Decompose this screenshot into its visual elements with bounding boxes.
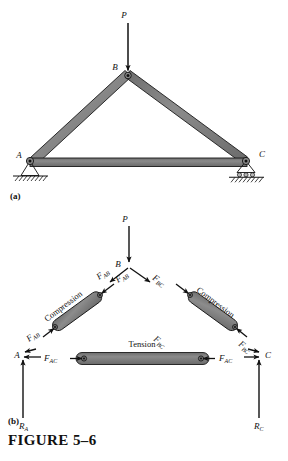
label-joint-a-a: A [15, 150, 22, 160]
label-fac-at-a: FAC [43, 353, 58, 364]
label-joint-c-b: C [265, 350, 272, 360]
figure-5-6: P B A C (a) P B FAB FBC [0, 0, 288, 461]
pin-joint-b-a [125, 72, 132, 79]
member-ac-a [30, 158, 247, 167]
member-ab-a [31, 71, 132, 164]
label-joint-b-a: B [112, 62, 118, 72]
part-a-diagram: P B A C (a) [10, 10, 266, 201]
member-bc-a [125, 71, 248, 164]
member-ac-b [76, 353, 209, 365]
part-b-label: (b) [8, 416, 19, 426]
label-load-p-a: P [120, 10, 127, 20]
label-fbc-member-bottom: FBC [235, 338, 254, 356]
label-load-p-b: P [121, 214, 128, 224]
label-tension: Tension [129, 339, 157, 349]
label-fab-member-top: FAB [112, 269, 130, 286]
force-arrow-fbc-member-bottom [237, 329, 248, 338]
label-joint-a-b: A [13, 350, 20, 360]
label-fbc-at-b: FBC [149, 272, 168, 290]
label-joint-b-b: B [115, 259, 121, 269]
label-reaction-ra: RA [18, 421, 29, 432]
part-a-label: (a) [10, 191, 21, 201]
label-fac-at-c: FAC [218, 353, 233, 364]
force-arrow-fbc-member-top [176, 284, 189, 294]
label-reaction-rc: RC [253, 421, 265, 432]
force-arrow-fab-member-bottom [43, 329, 54, 338]
force-arrow-fab-joint-a [25, 349, 36, 352]
figure-caption: FIGURE 5–6 [8, 432, 97, 449]
part-b-diagram: P B FAB FBC [8, 214, 272, 432]
label-fab-at-a: FAB [23, 328, 41, 345]
force-arrow-fbc-at-b [130, 268, 150, 282]
label-fab-at-b: FAB [93, 266, 111, 283]
label-joint-c-a: C [259, 149, 266, 159]
roller-wheels [237, 173, 254, 177]
truss-figure-svg: P B A C (a) P B FAB FBC [0, 0, 288, 461]
force-arrow-fab-member-top [102, 284, 115, 294]
